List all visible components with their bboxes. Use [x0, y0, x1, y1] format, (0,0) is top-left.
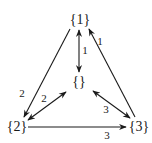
edge-label-3-to-1: 1	[97, 35, 103, 47]
diagram-svg: {1} {} {2} {3} 2 2 1 1 3 3	[0, 0, 152, 143]
node-1: {1}	[70, 12, 90, 27]
edge-empty-3	[93, 91, 130, 118]
node-2: {2}	[7, 119, 27, 134]
edge-label-empty-3: 3	[103, 103, 109, 115]
edge-label-2-to-3: 3	[104, 129, 110, 141]
edge-3-to-1	[89, 29, 135, 117]
edge-2-empty	[28, 92, 66, 120]
edge-1-to-2	[24, 29, 70, 117]
edge-label-1-empty: 1	[82, 44, 88, 56]
node-3: {3}	[129, 119, 149, 134]
lattice-diagram: {1} {} {2} {3} 2 2 1 1 3 3	[0, 0, 152, 143]
node-empty: {}	[72, 74, 85, 89]
edge-label-1-to-2: 2	[19, 87, 25, 99]
edge-label-2-empty: 2	[41, 92, 47, 104]
